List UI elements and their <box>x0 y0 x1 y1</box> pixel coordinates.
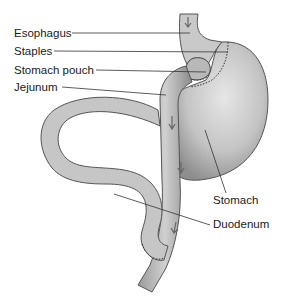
label-stomach: Stomach <box>213 194 258 207</box>
label-jejunum: Jejunum <box>14 81 57 94</box>
label-duodenum: Duodenum <box>213 218 269 231</box>
label-stomach-pouch: Stomach pouch <box>14 64 94 77</box>
stomach-shape <box>171 42 268 180</box>
label-esophagus: Esophagus <box>14 27 72 40</box>
label-staples: Staples <box>14 45 52 58</box>
duodenum-shape <box>41 97 168 260</box>
leader-jejunum <box>62 87 166 95</box>
